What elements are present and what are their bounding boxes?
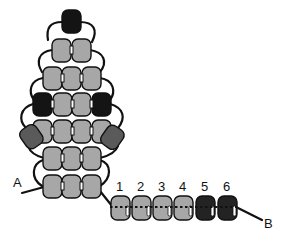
bead-black: [62, 10, 81, 33]
bead-gray: [53, 120, 72, 143]
strand-numbers: 1 2 3 4 5 6: [116, 179, 230, 194]
bead-gray: [82, 67, 101, 90]
label-a: A: [13, 175, 22, 190]
bead-gray: [43, 147, 62, 170]
bead-gray: [82, 175, 101, 198]
bead-black: [92, 93, 111, 116]
bead-strand: [110, 196, 238, 220]
strand-number-4: 4: [179, 179, 186, 194]
strand-number-6: 6: [223, 179, 230, 194]
label-b: B: [264, 216, 273, 231]
strand-number-1: 1: [116, 179, 123, 194]
bead-gray: [72, 93, 91, 116]
bead-gray: [53, 93, 72, 116]
bead-gray: [72, 39, 91, 62]
bead-gray: [72, 120, 91, 143]
strand-number-2: 2: [137, 179, 144, 194]
bead-black: [33, 93, 52, 116]
bead-gray: [52, 39, 71, 62]
beading-diagram: A 1 2 3 4 5 6 B: [0, 0, 284, 241]
bead-gray: [43, 67, 62, 90]
bead-gray: [43, 175, 62, 198]
bead-gray: [62, 147, 81, 170]
bead-gray: [62, 67, 81, 90]
bead-gray: [62, 175, 81, 198]
strand-number-5: 5: [201, 179, 208, 194]
bead-gray: [82, 147, 101, 170]
strand-number-3: 3: [158, 179, 165, 194]
